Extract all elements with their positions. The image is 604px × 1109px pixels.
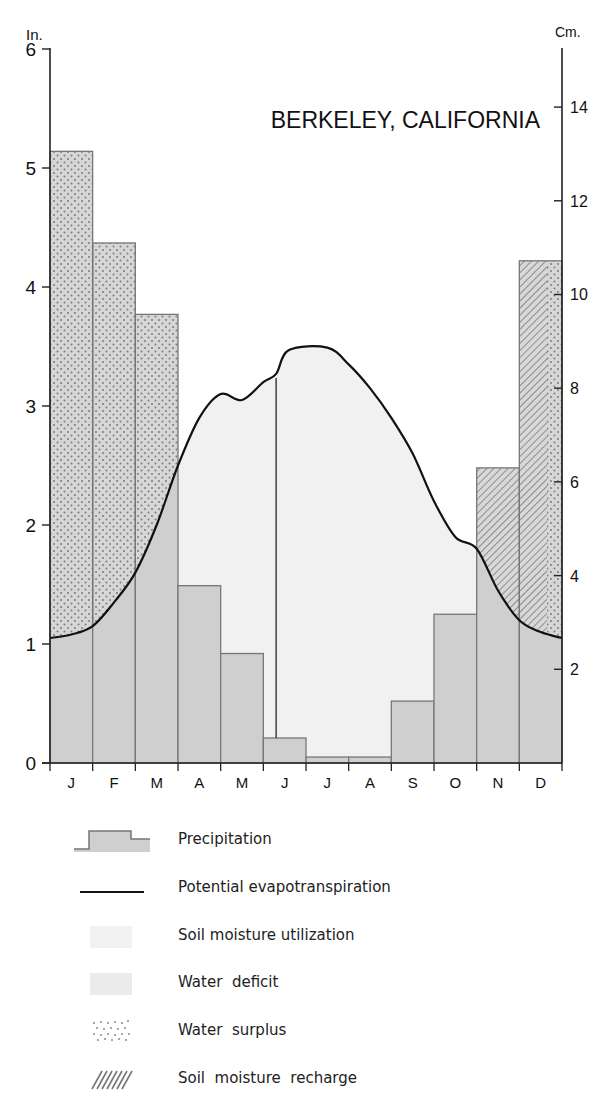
chart-title: BERKELEY, CALIFORNIA xyxy=(271,107,541,133)
pe-line-swatch-icon xyxy=(74,874,150,900)
svg-text:S: S xyxy=(408,774,418,791)
svg-text:5: 5 xyxy=(25,158,36,179)
svg-text:14: 14 xyxy=(570,99,588,116)
recharge-swatch-icon xyxy=(74,1065,150,1091)
svg-text:2: 2 xyxy=(570,661,579,678)
svg-text:J: J xyxy=(324,774,332,791)
svg-text:N: N xyxy=(493,774,504,791)
svg-text:J: J xyxy=(281,774,289,791)
svg-text:4: 4 xyxy=(570,568,579,585)
legend-item-utilization: Soil moisture utilization xyxy=(0,916,604,956)
svg-text:0: 0 xyxy=(25,753,36,774)
surplus-swatch-icon xyxy=(74,1017,150,1043)
deficit-swatch-icon xyxy=(74,969,150,995)
right-axis-unit: Cm. xyxy=(555,24,581,40)
legend-item-precipitation: Precipitation xyxy=(0,820,604,860)
svg-text:F: F xyxy=(109,774,118,791)
water-balance-chart: 01234562468101214JFMAMJJASOND BERKELEY, … xyxy=(0,0,604,800)
svg-text:2: 2 xyxy=(25,515,36,536)
svg-text:M: M xyxy=(150,774,163,791)
svg-text:6: 6 xyxy=(570,474,579,491)
svg-text:1: 1 xyxy=(25,634,36,655)
svg-text:12: 12 xyxy=(570,193,588,210)
svg-text:A: A xyxy=(194,774,204,791)
legend-item-pe: Potential evapotranspiration xyxy=(0,868,604,908)
legend-item-deficit: Water deficit xyxy=(0,963,604,1003)
left-axis-unit: In. xyxy=(26,26,43,43)
svg-text:A: A xyxy=(365,774,375,791)
precipitation-swatch-icon xyxy=(74,826,150,852)
svg-text:M: M xyxy=(236,774,249,791)
svg-text:D: D xyxy=(535,774,546,791)
svg-text:8: 8 xyxy=(570,380,579,397)
svg-text:J: J xyxy=(68,774,76,791)
svg-text:3: 3 xyxy=(25,396,36,417)
svg-text:4: 4 xyxy=(25,277,36,298)
svg-text:10: 10 xyxy=(570,286,588,303)
legend-item-surplus: Water surplus xyxy=(0,1011,604,1051)
legend-item-recharge: Soil moisture recharge xyxy=(0,1059,604,1099)
svg-text:O: O xyxy=(449,774,461,791)
utilization-swatch-icon xyxy=(74,922,150,948)
